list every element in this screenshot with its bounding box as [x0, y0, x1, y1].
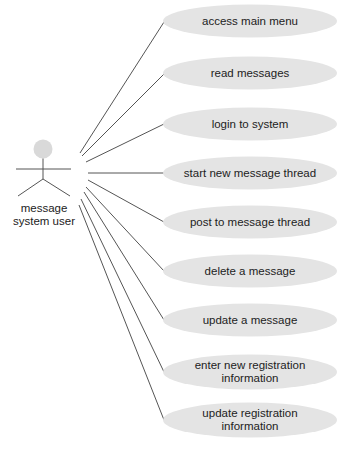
association-line-uc1 [80, 22, 164, 153]
use-case-access-main-menu[interactable]: access main menu [163, 5, 337, 38]
use-case-update-registration-information[interactable]: update registration information [163, 403, 337, 438]
actor-right-leg [43, 179, 70, 196]
use-case-login-to-system[interactable]: login to system [163, 108, 337, 141]
use-case-label: post to message thread [190, 216, 310, 228]
actor-head-icon [34, 140, 53, 159]
use-case-label: start new message thread [184, 167, 316, 179]
actor-label-line-2: system user [13, 215, 75, 227]
use-case-label: update a message [203, 314, 298, 326]
use-case-label-line-1: enter new registration [195, 359, 306, 371]
use-case-update-a-message[interactable]: update a message [163, 304, 337, 337]
association-line-uc7 [84, 192, 164, 320]
use-case-delete-a-message[interactable]: delete a message [163, 255, 337, 288]
use-case-read-messages[interactable]: read messages [163, 57, 337, 90]
association-lines [79, 22, 164, 420]
use-case-label-line-2: information [222, 372, 279, 384]
association-line-uc3 [86, 124, 164, 162]
use-case-label-line-1: update registration [202, 407, 297, 419]
use-case-label: login to system [212, 118, 289, 130]
actor-message-system-user[interactable]: message system user [13, 140, 75, 228]
use-case-post-to-message-thread[interactable]: post to message thread [163, 206, 337, 239]
actor-left-leg [18, 179, 43, 196]
use-case-enter-new-registration-information[interactable]: enter new registration information [163, 355, 337, 390]
actor-label-line-1: message [21, 202, 68, 214]
use-case-label: read messages [211, 67, 290, 79]
use-case-label: access main menu [202, 15, 298, 27]
use-case-label: delete a message [205, 265, 296, 277]
use-case-label-line-2: information [222, 420, 279, 432]
association-line-uc9 [79, 205, 164, 420]
use-case-start-new-message-thread[interactable]: start new message thread [163, 157, 337, 190]
use-case-diagram: message system user access main menu rea… [0, 0, 344, 450]
association-line-uc8 [81, 199, 164, 372]
